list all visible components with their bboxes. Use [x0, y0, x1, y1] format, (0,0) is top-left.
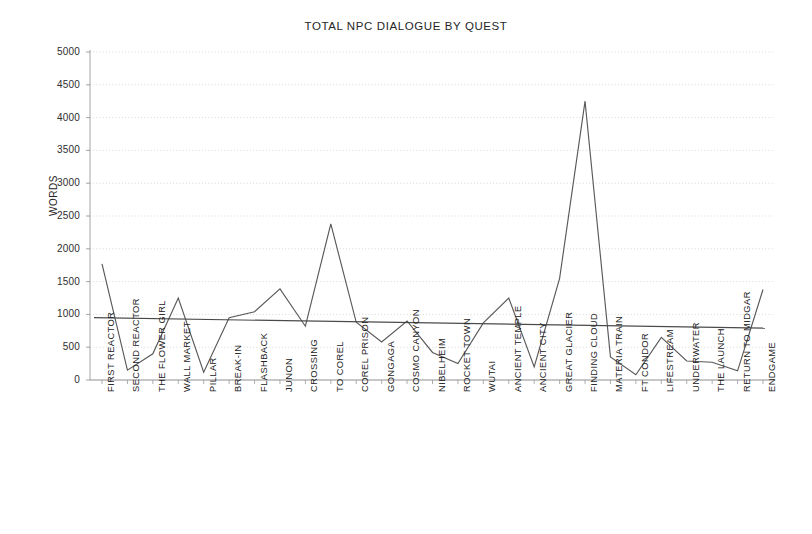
y-axis-tick-label: 2500: [40, 210, 80, 221]
x-axis-tick-label: RETURN TO MIDGAR: [742, 291, 752, 392]
x-axis-tick-label: SECOND REACTOR: [131, 298, 141, 392]
x-axis-tick-label: WALL MARKET: [182, 321, 192, 392]
y-axis-tick-label: 500: [40, 341, 80, 352]
x-axis-tick-label: LIFESTREAM: [665, 329, 675, 392]
y-axis-tick-label: 2000: [40, 243, 80, 254]
x-axis-tick-label: ROCKET TOWN: [462, 318, 472, 392]
y-axis-tick-label: 3500: [40, 144, 80, 155]
data-series-line: [102, 101, 763, 375]
x-axis-tick-label: JUNON: [284, 358, 294, 392]
y-axis-tick-label: 3000: [40, 177, 80, 188]
chart-plot-area: [0, 0, 812, 534]
y-axis-tick-label: 5000: [40, 46, 80, 57]
x-axis-tick-label: THE FLOWER GIRL: [157, 300, 167, 392]
x-axis-tick-label: WUTAI: [487, 360, 497, 392]
y-axis-tick-label: 1000: [40, 308, 80, 319]
x-axis-tick-label: THE LAUNCH: [716, 328, 726, 392]
y-axis-tick-label: 1500: [40, 276, 80, 287]
x-axis-tick-label: FIRST REACTOR: [106, 312, 116, 392]
x-axis-tick-label: GONGAGA: [386, 341, 396, 392]
x-axis-tick-label: ANCIENT TEMPLE: [513, 305, 523, 392]
x-axis-tick-label: NIBELHEIM: [437, 338, 447, 392]
y-axis-tick-label: 4000: [40, 112, 80, 123]
x-axis-tick-label: FINDING CLOUD: [589, 313, 599, 392]
x-axis-tick-label: ANCIENT CITY: [538, 322, 548, 392]
chart-container: TOTAL NPC DIALOGUE BY QUEST WORDS 500045…: [0, 0, 812, 534]
x-axis-tick-label: TO COREL: [335, 341, 345, 392]
x-axis-tick-label: BREAK-IN: [233, 344, 243, 392]
x-axis-tick-label: COREL PRISON: [360, 317, 370, 392]
y-axis-tick-label: 0: [40, 374, 80, 385]
x-axis-tick-label: UNDERWATER: [691, 322, 701, 392]
x-axis-tick-label: PILLAR: [208, 357, 218, 392]
x-axis-ticks: [102, 380, 763, 384]
chart-title: TOTAL NPC DIALOGUE BY QUEST: [0, 20, 812, 32]
x-axis-tick-label: COSMO CANYON: [411, 309, 421, 392]
x-axis-tick-label: ENDGAME: [767, 342, 777, 392]
x-axis-tick-label: CROSSING: [309, 339, 319, 392]
x-axis-tick-label: FT CONDOR: [640, 333, 650, 392]
trendline: [94, 318, 765, 328]
x-axis-tick-label: GREAT GLACIER: [564, 312, 574, 392]
y-axis-tick-label: 4500: [40, 79, 80, 90]
x-axis-tick-label: FLASHBACK: [259, 333, 269, 392]
x-axis-tick-label: MATERIA TRAIN: [614, 316, 624, 392]
